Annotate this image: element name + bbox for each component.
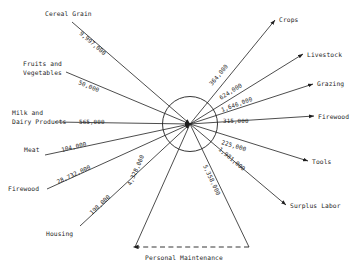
output-label-surplus-labor: Surplus Labor (290, 202, 341, 210)
input-label-meat: Meat (24, 146, 40, 153)
input-label-cereal-grain: Cereal Grain (45, 10, 92, 17)
feedback-value-left: 4,328,000 (126, 154, 145, 187)
input-value-milk-dairy: 565,000 (79, 119, 105, 125)
input-value-housing: 198,000 (89, 194, 112, 216)
input-label-milk-dairy-line1: Milk and (12, 109, 43, 116)
flow-in-milk-dairy (55, 122, 190, 124)
input-label-firewood: Firewood (8, 185, 39, 192)
input-label-milk-dairy-line2: Dairy Products (12, 118, 67, 126)
flow-out-personal-maintenance-right (190, 124, 249, 247)
flow-out-firewood (190, 116, 314, 124)
feedback-label-personal-maintenance: Personal Maintenance (145, 254, 223, 261)
output-label-firewood: Firewood (318, 113, 349, 120)
output-value-firewood: 315,000 (223, 118, 249, 124)
flow-in-fruits-vegetables (66, 72, 190, 124)
input-label-fruits-vegetables-line2: Vegetables (23, 69, 62, 77)
flow-in-personal-maintenance-left (135, 124, 190, 247)
output-value-crops: 364,000 (208, 63, 229, 87)
input-value-cereal-grain: 9,997,000 (78, 30, 107, 56)
flow-out-tools (190, 124, 308, 161)
input-value-meat: 104,000 (61, 141, 88, 153)
output-label-livestock: Livestock (307, 51, 342, 58)
output-label-crops: Crops (279, 16, 299, 24)
output-label-tools: Tools (312, 158, 332, 165)
input-label-fruits-vegetables-line1: Fruits and (23, 60, 62, 67)
energy-flow-diagram: Cereal Grain 9,997,000 Fruits and Vegeta… (0, 0, 360, 266)
output-label-grazing: Grazing (317, 80, 344, 88)
input-label-housing: Housing (46, 230, 73, 238)
input-value-firewood: 28,732,000 (56, 164, 92, 185)
flow-out-livestock (190, 54, 303, 124)
